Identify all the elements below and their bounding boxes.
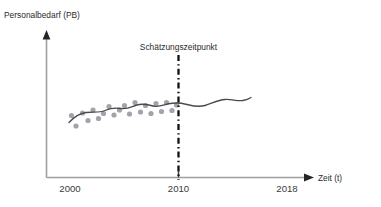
y-axis-label: Personalbedarf (PB) [4,10,80,20]
scatter-point [96,116,101,121]
chart-canvas: Personalbedarf (PB) Schätzungszeitpunkt … [0,0,381,207]
scatter-point [148,111,153,116]
scatter-point [127,111,132,116]
x-tick-label-2018: 2018 [276,183,297,194]
scatter-point [153,101,158,106]
y-axis-arrowhead [43,30,51,40]
scatter-point [73,123,78,128]
scatter-point [169,108,174,113]
estimation-point-label: Schätzungszeitpunkt [140,42,218,52]
x-tick-label-2000: 2000 [59,183,80,194]
scatter-point [85,118,90,123]
scatter-point [69,113,74,118]
scatter-point [132,100,137,105]
scatter-points-group [69,100,179,129]
scatter-point [122,103,127,108]
personnel-demand-forecast-chart: Personalbedarf (PB) Schätzungszeitpunkt … [0,0,381,207]
scatter-point [138,109,143,114]
x-axis-label: Zeit (t) [318,173,342,183]
scatter-point [159,109,164,114]
x-axis-arrowhead [304,173,314,181]
x-tick-label-2010: 2010 [168,183,189,194]
scatter-point [111,112,116,117]
